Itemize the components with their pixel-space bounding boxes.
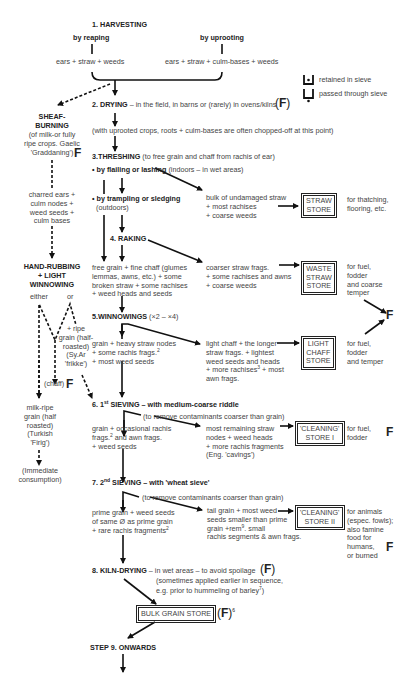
arrow-to-onwards [128, 622, 155, 638]
dash-ripe-to-sieving [82, 375, 92, 398]
fuel-marker-cleaning1: F [386, 425, 393, 439]
trampling-note: (outdoors) [96, 204, 129, 213]
cleaning-store-2: 'CLEANING'STORE II [297, 507, 343, 528]
arrow-to-coarse-straw [148, 240, 202, 262]
or-label: or [67, 293, 73, 302]
uprooting-products: ears + straw + culm-bases + weeds [165, 58, 278, 67]
light-chaff-store: LIGHTCHAFFSTORE [303, 338, 334, 368]
flailing-method: • by flailing or lashing (indoors – in w… [92, 166, 244, 175]
step-onwards: STEP 9. ONWARDS [90, 644, 156, 653]
fuel-marker-sheaf: F [74, 146, 81, 160]
sieve1-waste-products: most remaining strawnodes + weed heads+ … [206, 425, 284, 460]
arrow-chaff-to-F [365, 320, 384, 334]
sieve1-main-products: grain + occasional rachisfrags.2 and awn… [92, 425, 171, 451]
chaff-label: (chaff) [44, 380, 64, 389]
step-threshing: 3.THRESHING (to free grain and chaff fro… [92, 153, 275, 162]
immediate-consumption: (Immediateconsumption) [14, 467, 66, 485]
step-sieving-1: 6. 1st SIEVING – with medium-coarse ridd… [92, 401, 239, 410]
waste-straw-uses: for fuel,fodderand coarsetemper [347, 263, 383, 298]
waste-straw-store: WASTESTRAWSTORE [303, 263, 335, 293]
straw-bulk-products: bulk of undamaged straw+ most rachises+ … [206, 194, 286, 220]
sieve2-main-products: prime grain + weed seedsof same Ø as pri… [92, 509, 175, 535]
step-drying: 2. DRYING – in the field, in barns or (r… [92, 101, 276, 110]
ripe-grain-branch: + ripegrain (half-roasted)(Sy.Ar'frikke'… [58, 325, 94, 369]
sheaf-burning-note: (of milk-or fullyripe crops. Gaelic'Grad… [22, 131, 82, 157]
passed-through-sieve-icon [303, 88, 315, 103]
raking-coarse-products: coarser straw frags.+ some rachises and … [206, 264, 291, 290]
hand-rubbing-title: HAND-RUBBING+ LIGHTWINNOWING [20, 263, 84, 289]
step-raking: 4. RAKING [110, 235, 146, 244]
cleaning-store-1: 'CLEANING'STORE I [297, 423, 343, 444]
legend-retained-label: retained in sieve [319, 76, 371, 85]
step-kiln-drying: 8. KILN-DRYING – in wet areas – to avoid… [92, 567, 256, 576]
fuel-marker-temper: F [386, 308, 393, 322]
fuel-marker-bulk: (F)6 [217, 606, 235, 620]
winnow-light-products: light chaff + the longerstraw frags. + l… [206, 340, 284, 384]
uprooted-note: (with uprooted crops, roots + culm-bases… [92, 127, 333, 136]
charred-products: charred ears +culm nodes +weed seeds +cu… [22, 191, 82, 226]
bulk-grain-store: BULK GRAIN STORE [138, 607, 214, 621]
cleaning-store-1-uses: for fuel,fodder [347, 425, 371, 443]
kiln-note-3: e.g. prior to hummeling of barley7) [156, 587, 264, 596]
straw-uses: for thatching,flooring, etc. [347, 196, 389, 214]
arrow-waste-to-F [364, 300, 386, 313]
legend-passed-label: passed through sieve [319, 90, 387, 99]
by-reaping-label: by reaping [73, 34, 109, 43]
sieving-1-note: (to remove contaminants coarser than gra… [143, 413, 284, 422]
arrow-to-bulk-store [124, 579, 156, 604]
light-chaff-uses: for fuel,fodderand temper [347, 340, 383, 366]
retained-in-sieve-icon [303, 74, 315, 86]
step-sieving-2: 7. 2nd SIEVING – with 'wheat sieve' [92, 479, 209, 488]
step-winnowings: 5.WINNOWINGS (×2 – ×4) [92, 313, 178, 322]
harvest-brace [92, 72, 222, 80]
sieve2-tail-products: tail grain + most weedseeds smaller than… [207, 507, 301, 542]
kiln-note-2: (sometimes applied earlier in sequence, [156, 577, 283, 586]
straw-store: STRAWSTORE [303, 195, 335, 216]
step-harvesting: 1. HARVESTING [92, 21, 147, 30]
fuel-marker-drying: (F) [275, 96, 290, 110]
either-label: either [30, 293, 48, 302]
fuel-marker-kiln: (F) [260, 562, 275, 576]
fuel-marker-cleaning2: F [386, 540, 393, 554]
fuel-marker-chaff: F [66, 377, 73, 391]
raking-main-products: free grain + fine chaff (glumeslemmas, a… [92, 264, 188, 299]
by-uprooting-label: by uprooting [200, 34, 244, 43]
reaping-products: ears + straw + weeds [56, 58, 124, 67]
sieving-2-note: (to remove contaminants coarser than gra… [142, 494, 283, 503]
sheaf-burning-title: SHEAF-BURNING [30, 113, 74, 131]
winnow-main-products: grain + heavy straw nodes+ some rachis f… [92, 340, 176, 366]
milk-ripe-grain: milk-ripegrain (halfroasted)(Turkish'Fir… [18, 404, 62, 448]
